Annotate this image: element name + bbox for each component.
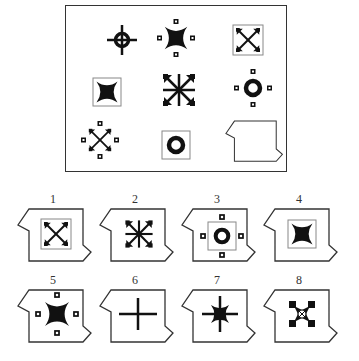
option-6[interactable] — [95, 286, 175, 348]
ring-with-dots-icon — [233, 68, 273, 108]
diagonal-arrows-with-dots-icon — [80, 120, 120, 160]
option-5[interactable] — [13, 286, 93, 348]
option-1[interactable] — [13, 205, 93, 267]
option-3[interactable] — [177, 205, 257, 267]
option-7[interactable] — [177, 286, 257, 348]
boxed-ring-icon — [156, 125, 196, 165]
boxed-four-point-star-icon — [87, 72, 127, 112]
eight-arrow-burst-icon — [159, 70, 199, 110]
option-2[interactable] — [95, 205, 175, 267]
crosshair-ring-icon — [102, 20, 142, 60]
option-4[interactable] — [259, 205, 339, 267]
missing-piece-placeholder — [220, 118, 286, 166]
option-8[interactable] — [259, 286, 339, 348]
four-point-star-with-dots-icon — [156, 18, 196, 58]
boxed-diagonal-arrows-icon — [228, 20, 268, 60]
